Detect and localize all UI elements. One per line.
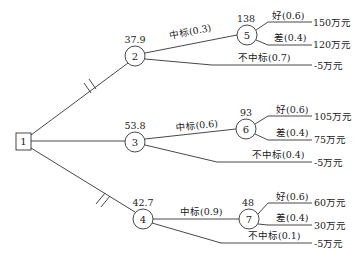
chance-node-3-label: 3: [132, 137, 138, 148]
ev-node-2: 37.9: [124, 34, 145, 45]
decision-node-label: 1: [20, 136, 26, 147]
lose-label-2: 不中标(0.7): [238, 52, 291, 63]
branch-1-to-2: [31, 63, 128, 135]
bad-payoff-6: 75万元: [314, 134, 346, 145]
branch-win-2: [145, 35, 237, 53]
good-payoff-6: 105万元: [314, 111, 352, 122]
bad-label-6: 差(0.4): [276, 127, 309, 138]
ev-node-6: 93: [240, 107, 252, 118]
ev-node-4: 42.7: [132, 197, 153, 208]
good-payoff-5: 150万元: [313, 17, 351, 28]
prune-mark-alt-1: [84, 79, 96, 93]
good-label-5: 好(0.6): [272, 10, 305, 21]
ev-node-5: 138: [237, 13, 255, 24]
good-payoff-7: 60万元: [314, 197, 346, 208]
chance-node-2-label: 2: [132, 51, 138, 62]
alternative-1: 37.9 2 中标(0.3) 不中标(0.7) -5万元 138 5 好(0.6…: [124, 10, 351, 71]
lose-payoff-3: -5万元: [314, 157, 343, 168]
bad-payoff-7: 30万元: [314, 220, 346, 231]
win-label-4: 中标(0.9): [180, 206, 223, 217]
bad-payoff-5: 120万元: [313, 39, 351, 50]
chance-node-4-label: 4: [140, 214, 146, 225]
good-label-6: 好(0.6): [276, 104, 309, 115]
chance-node-6-label: 6: [243, 124, 249, 135]
lose-payoff-2: -5万元: [314, 60, 343, 71]
alternative-2: 53.8 3 中标(0.6) 不中标(0.4) -5万元 93 6 好(0.6)…: [124, 104, 352, 168]
decision-node-1: 1: [16, 133, 31, 150]
bad-label-5: 差(0.4): [274, 32, 307, 43]
chance-node-7-label: 7: [246, 214, 252, 225]
win-label-3: 中标(0.6): [175, 118, 218, 133]
lose-label-3: 不中标(0.4): [252, 149, 305, 160]
decision-tree: 1 37.9 2 中标(0.3) 不中标(0.7) -5万元 138 5 好(0…: [0, 0, 356, 258]
branch-good-5: [256, 22, 312, 30]
win-label-2: 中标(0.3): [168, 22, 212, 41]
branch-1-to-4: [31, 148, 135, 212]
lose-payoff-4: -5万元: [314, 238, 343, 249]
branch-good-6: [255, 116, 312, 124]
bad-label-7: 差(0.4): [276, 212, 309, 223]
good-label-7: 好(0.6): [276, 191, 309, 202]
ev-node-3: 53.8: [124, 120, 145, 131]
chance-node-5-label: 5: [244, 30, 250, 41]
ev-node-7: 48: [242, 197, 254, 208]
alternative-3: 42.7 4 中标(0.9) 不中标(0.1) -5万元 48 7 好(0.6)…: [132, 191, 346, 249]
lose-label-4: 不中标(0.1): [248, 230, 301, 241]
branch-bad-7: [258, 224, 312, 225]
